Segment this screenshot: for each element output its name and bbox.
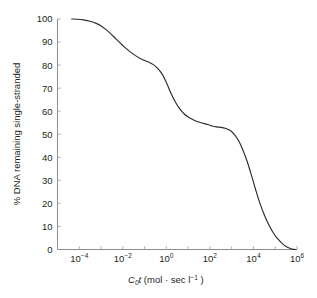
y-tick-label: 30 [42, 175, 53, 186]
x-tick-label: 104 [246, 252, 261, 264]
x-axis-tick-labels: 10−410−2100102104106 [70, 252, 304, 264]
y-tick-label: 70 [42, 83, 53, 94]
y-tick-label: 50 [42, 129, 53, 140]
cot-curve-figure: 0102030405060708090100 10−410−2100102104… [0, 0, 317, 298]
x-title-rest-close: ) [198, 274, 204, 285]
y-tick-label: 40 [42, 152, 53, 163]
x-axis-tickmarks [58, 246, 298, 249]
x-tick-label: 10−4 [70, 252, 88, 264]
svg-text:C0t (mol · sec l−1 ): C0t (mol · sec l−1 ) [128, 274, 204, 287]
x-tick-label: 102 [203, 252, 218, 264]
y-axis-tickmarks [58, 19, 61, 250]
x-axis-title: C0t (mol · sec l−1 ) [128, 274, 204, 287]
x-tick-label: 100 [159, 252, 174, 264]
x-title-rest-open: (mol · sec l [141, 274, 190, 285]
y-tick-label: 60 [42, 106, 53, 117]
data-series-line [72, 19, 296, 250]
y-tick-label: 10 [42, 221, 53, 232]
y-tick-label: 90 [42, 36, 53, 47]
y-axis-tick-labels: 0102030405060708090100 [37, 13, 53, 255]
x-tick-label: 106 [290, 252, 305, 264]
x-tick-label: 10−2 [114, 252, 132, 264]
y-tick-label: 80 [42, 60, 53, 71]
y-axis-title: % DNA remaining single-stranded [11, 63, 22, 206]
y-tick-label: 20 [42, 198, 53, 209]
chart-canvas: 0102030405060708090100 10−410−2100102104… [0, 0, 317, 298]
y-tick-label: 100 [37, 13, 53, 24]
y-tick-label: 0 [47, 244, 52, 255]
